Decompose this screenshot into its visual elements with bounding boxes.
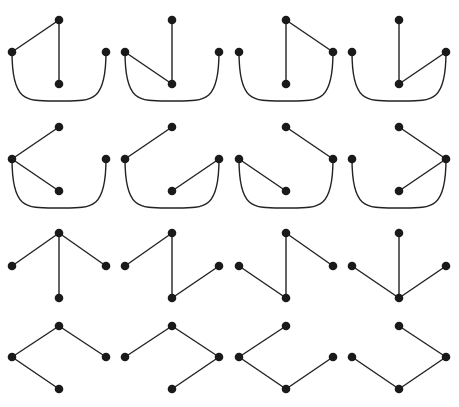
- tree-panel-4: [348, 16, 451, 101]
- edge-bottom-right: [286, 357, 333, 389]
- vertex-top: [55, 16, 64, 25]
- vertex-left: [348, 48, 357, 57]
- edge-bottom-right: [172, 159, 219, 191]
- edge-top-right: [59, 233, 106, 266]
- vertex-right: [329, 48, 338, 57]
- edge-top-left: [239, 326, 286, 357]
- vertex-bottom: [55, 187, 64, 196]
- vertex-top: [55, 123, 64, 132]
- vertex-bottom: [55, 80, 64, 89]
- tree-panel-12: [348, 229, 451, 303]
- curved-edge: [239, 159, 333, 208]
- vertex-right: [329, 262, 338, 271]
- edge-bottom-right: [399, 159, 446, 191]
- vertex-right: [442, 353, 451, 362]
- edge-left-bottom: [352, 357, 399, 389]
- edge-top-right: [286, 233, 333, 266]
- edge-left-bottom: [239, 357, 286, 389]
- vertex-right: [442, 48, 451, 57]
- curved-edge: [125, 159, 219, 208]
- vertex-bottom: [395, 294, 404, 303]
- vertex-right: [215, 262, 224, 271]
- vertex-top: [168, 322, 177, 331]
- tree-panel-5: [8, 123, 111, 208]
- vertex-top: [395, 16, 404, 25]
- edge-left-bottom: [12, 159, 59, 191]
- vertex-right: [442, 262, 451, 271]
- vertex-bottom: [395, 80, 404, 89]
- tree-panel-16: [348, 322, 451, 394]
- vertex-bottom: [395, 385, 404, 394]
- vertex-right: [442, 155, 451, 164]
- edge-left-bottom: [12, 357, 59, 389]
- edge-top-right: [286, 127, 333, 159]
- vertex-left: [235, 48, 244, 57]
- vertex-bottom: [282, 385, 291, 394]
- edge-top-right: [172, 326, 219, 357]
- vertex-left: [348, 353, 357, 362]
- tree-panel-1: [8, 16, 111, 101]
- tree-panel-15: [235, 322, 338, 394]
- vertex-bottom: [55, 385, 64, 394]
- edge-bottom-right: [399, 52, 446, 84]
- edge-left-bottom: [352, 266, 399, 298]
- vertex-bottom: [282, 80, 291, 89]
- vertex-left: [8, 353, 17, 362]
- vertex-right: [329, 353, 338, 362]
- tree-panel-14: [121, 322, 224, 394]
- edge-top-left: [125, 127, 172, 159]
- curved-edge: [12, 159, 106, 208]
- edge-bottom-right: [399, 357, 446, 389]
- edge-left-bottom: [239, 159, 286, 191]
- vertex-top: [282, 229, 291, 238]
- tree-panel-7: [235, 123, 338, 208]
- vertex-top: [168, 229, 177, 238]
- spanning-tree-diagram: [0, 0, 459, 407]
- vertex-left: [8, 48, 17, 57]
- vertex-left: [121, 353, 130, 362]
- vertex-bottom: [282, 187, 291, 196]
- vertex-top: [395, 229, 404, 238]
- vertex-left: [235, 262, 244, 271]
- edge-top-right: [286, 20, 333, 52]
- tree-panel-6: [121, 123, 224, 208]
- vertex-bottom: [395, 187, 404, 196]
- vertex-top: [395, 123, 404, 132]
- vertex-top: [395, 322, 404, 331]
- vertex-bottom: [168, 187, 177, 196]
- vertex-top: [168, 16, 177, 25]
- edge-top-right: [399, 127, 446, 159]
- vertex-top: [55, 322, 64, 331]
- edge-top-left: [12, 20, 59, 52]
- edge-top-left: [12, 326, 59, 357]
- edge-top-right: [399, 326, 446, 357]
- edge-top-left: [125, 233, 172, 266]
- edge-top-left: [12, 233, 59, 266]
- vertex-bottom: [168, 80, 177, 89]
- vertex-left: [235, 155, 244, 164]
- vertex-bottom: [168, 385, 177, 394]
- vertex-top: [168, 123, 177, 132]
- tree-panel-11: [235, 229, 338, 303]
- tree-panel-8: [348, 123, 451, 208]
- vertex-bottom: [168, 294, 177, 303]
- edge-bottom-right: [399, 266, 446, 298]
- vertex-right: [102, 48, 111, 57]
- edge-top-left: [125, 326, 172, 357]
- vertex-top: [282, 16, 291, 25]
- vertex-left: [8, 262, 17, 271]
- edge-bottom-right: [172, 266, 219, 298]
- edge-left-bottom: [125, 52, 172, 84]
- vertex-left: [121, 262, 130, 271]
- vertex-left: [121, 155, 130, 164]
- edge-top-right: [59, 326, 106, 357]
- vertex-right: [102, 353, 111, 362]
- vertex-left: [235, 353, 244, 362]
- tree-panel-9: [8, 229, 111, 303]
- vertex-left: [348, 262, 357, 271]
- vertex-right: [215, 48, 224, 57]
- vertex-left: [348, 155, 357, 164]
- vertex-top: [55, 229, 64, 238]
- tree-panel-3: [235, 16, 338, 101]
- vertex-right: [329, 155, 338, 164]
